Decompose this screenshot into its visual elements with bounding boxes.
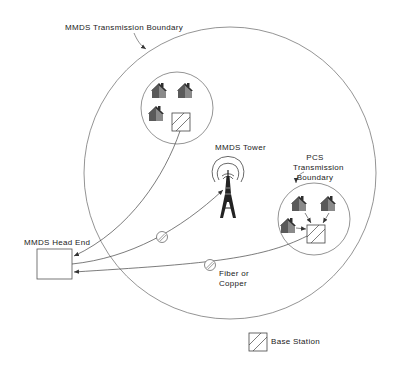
head-end-label: MMDS Head End [24, 238, 90, 248]
legend-base-station-icon [249, 333, 267, 351]
splice-icon [157, 232, 168, 243]
legend-base-station-label: Base Station [271, 337, 320, 347]
mmds-tower-icon [212, 156, 244, 218]
base-station-icon [307, 225, 325, 243]
cell-upper [141, 72, 213, 144]
fiber-label-line2: Copper [219, 279, 249, 289]
network-diagram [0, 0, 393, 366]
mmds-head-end-box[interactable] [37, 249, 72, 279]
pcs-boundary-label: PCS Transmission Boundary [293, 153, 337, 183]
mmds-boundary-pointer [134, 33, 146, 49]
fiber-label-line1: Fiber or [219, 269, 249, 279]
fiber-copper-label: Fiber or Copper [219, 269, 249, 289]
base-station-icon [172, 113, 190, 131]
splice-icon [205, 260, 216, 271]
pcs-label-line3: Boundary [293, 173, 337, 183]
mmds-boundary-label: MMDS Transmission Boundary [65, 23, 183, 33]
pcs-label-line2: Transmission [293, 163, 337, 173]
pcs-label-line1: PCS [293, 153, 337, 163]
mmds-tower-label: MMDS Tower [215, 143, 266, 153]
